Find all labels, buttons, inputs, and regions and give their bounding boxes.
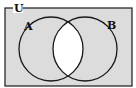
venn-diagram: U A B	[0, 0, 136, 88]
set-a-label: A	[23, 20, 33, 33]
set-b-label: B	[107, 19, 116, 32]
universe-label: U	[14, 2, 24, 15]
